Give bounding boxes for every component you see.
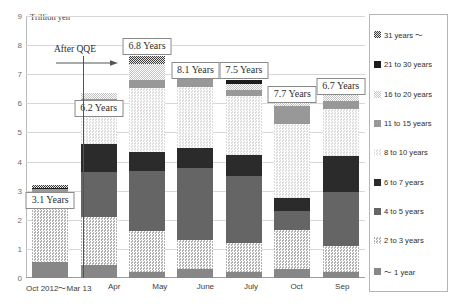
bar-segment-y67 xyxy=(323,156,359,192)
stacked-bar[interactable] xyxy=(274,99,310,278)
bar-segment-y45 xyxy=(226,176,262,243)
legend-swatch-icon xyxy=(374,120,381,127)
x-tick-slot: Oct 2012～Mar 13 xyxy=(26,280,91,302)
bar-segment-y1 xyxy=(177,269,213,278)
legend-swatch-icon xyxy=(374,237,381,244)
maturity-callout: 6.2 Years xyxy=(74,100,123,117)
bar-slot xyxy=(171,16,219,278)
x-tick-slot: Oct xyxy=(274,280,320,302)
maturity-callout: 7.5 Years xyxy=(219,62,268,79)
legend-label: 8 to 10 years xyxy=(384,148,428,157)
bar-segment-y67 xyxy=(177,148,213,168)
bar-segment-y23 xyxy=(129,231,165,272)
bar-segment-y1 xyxy=(323,272,359,278)
bar-slot xyxy=(220,16,268,278)
bar-segment-y810 xyxy=(226,96,262,156)
y-tick-label: 8 xyxy=(18,41,22,50)
bar-segment-y67 xyxy=(129,152,165,171)
bar-slot xyxy=(123,16,171,278)
bar-segment-y1 xyxy=(274,269,310,278)
legend-swatch-icon xyxy=(374,268,381,275)
bar-segment-y1115 xyxy=(323,101,359,110)
legend-swatch-icon xyxy=(374,61,381,68)
x-tick-label: Sep xyxy=(335,280,349,291)
stacked-bar[interactable] xyxy=(129,56,165,278)
x-axis-labels: Oct 2012～Mar 13AprMayJuneJulyOctSep xyxy=(26,280,365,302)
bar-segment-y45 xyxy=(323,192,359,246)
legend-item-y1620[interactable]: 16 to 20 years xyxy=(374,90,445,99)
bar-segment-y1 xyxy=(81,265,117,278)
maturity-callout: 6.7 Years xyxy=(316,78,365,95)
y-tick-label: 4 xyxy=(18,157,22,166)
bar-slot xyxy=(26,16,74,278)
bar-segment-y45 xyxy=(129,171,165,231)
bar-segment-y45 xyxy=(81,172,117,217)
bar-segment-y67 xyxy=(274,198,310,211)
bar-segment-y1 xyxy=(32,262,68,278)
legend-swatch-icon xyxy=(374,149,381,156)
maturity-callout: 7.7 Years xyxy=(268,86,317,103)
bar-segment-y810 xyxy=(177,87,213,148)
bar-segment-y23 xyxy=(81,217,117,265)
stacked-bar[interactable] xyxy=(226,80,262,278)
legend-item-y810[interactable]: 8 to 10 years xyxy=(374,148,445,157)
stacked-bar-chart: Trillion yen 9876543210 3.1 Years6.2 Yea… xyxy=(0,0,450,306)
legend-item-y2130[interactable]: 21 to 30 years xyxy=(374,60,445,69)
y-tick-label: 0 xyxy=(18,274,22,283)
bar-segment-y810 xyxy=(274,124,310,198)
legend-label: 11 to 15 years xyxy=(384,119,432,128)
legend-item-y45[interactable]: 4 to 5 years xyxy=(374,207,445,216)
maturity-callout: 6.8 Years xyxy=(123,38,172,55)
bar-segment-y810 xyxy=(129,88,165,152)
legend-swatch-icon xyxy=(374,31,381,38)
legend-swatch-icon xyxy=(374,179,381,186)
bar-segment-y1620 xyxy=(129,64,165,80)
y-tick-label: 9 xyxy=(18,12,22,21)
legend-label: 4 to 5 years xyxy=(384,207,424,216)
y-tick-label: 1 xyxy=(18,244,22,253)
x-tick-label: Apr xyxy=(108,280,120,291)
legend-item-y31[interactable]: 31 years ～ xyxy=(374,29,445,40)
bar-segment-y67 xyxy=(226,155,262,175)
x-tick-label: July xyxy=(244,280,258,291)
after-qqe-divider xyxy=(83,56,84,278)
legend-swatch-icon xyxy=(374,208,381,215)
legend-label: 31 years ～ xyxy=(384,29,423,40)
legend-label: 16 to 20 years xyxy=(384,90,432,99)
legend-item-y1[interactable]: ～ 1 year xyxy=(374,266,445,277)
stacked-bar[interactable] xyxy=(81,93,117,278)
bar-segment-y67 xyxy=(81,144,117,172)
bar-segment-y23 xyxy=(177,240,213,269)
bar-segment-y1115 xyxy=(129,80,165,89)
bar-segment-y23 xyxy=(226,243,262,272)
chart-legend: 31 years ～21 to 30 years16 to 20 years11… xyxy=(369,14,448,292)
bar-segment-y1 xyxy=(226,272,262,278)
bar-segment-y23 xyxy=(323,246,359,272)
x-tick-label: Oct xyxy=(290,280,302,291)
x-tick-slot: July xyxy=(228,280,274,302)
legend-item-y67[interactable]: 6 to 7 years xyxy=(374,178,445,187)
bar-slot xyxy=(317,16,365,278)
legend-swatch-icon xyxy=(374,91,381,98)
after-qqe-arrow-icon xyxy=(56,59,118,67)
maturity-callout: 8.1 Years xyxy=(171,62,220,79)
bar-group xyxy=(26,16,365,278)
x-tick-label: June xyxy=(197,280,214,291)
legend-item-y23[interactable]: 2 to 3 years xyxy=(374,236,445,245)
x-tick-slot: Apr xyxy=(91,280,137,302)
plot-area: 9876543210 3.1 Years6.2 Years6.8 Years8.… xyxy=(26,16,365,278)
stacked-bar[interactable] xyxy=(323,91,359,278)
bar-segment-y45 xyxy=(274,211,310,230)
bar-segment-y1 xyxy=(129,272,165,278)
y-tick-label: 5 xyxy=(18,128,22,137)
stacked-bar[interactable] xyxy=(177,63,213,278)
y-tick-label: 7 xyxy=(18,70,22,79)
bar-segment-y1115 xyxy=(177,78,213,87)
legend-item-y1115[interactable]: 11 to 15 years xyxy=(374,119,445,128)
bar-slot xyxy=(74,16,122,278)
bar-segment-y23 xyxy=(274,230,310,269)
x-tick-slot: Sep xyxy=(319,280,365,302)
y-tick-label: 2 xyxy=(18,215,22,224)
legend-label: ～ 1 year xyxy=(384,266,415,277)
x-tick-slot: May xyxy=(137,280,183,302)
